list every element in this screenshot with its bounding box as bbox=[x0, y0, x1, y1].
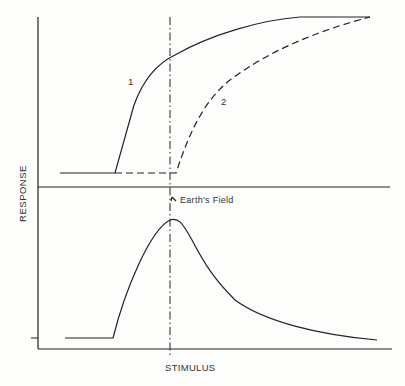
arrow-icon bbox=[171, 197, 176, 201]
response-curve bbox=[65, 219, 377, 340]
curve-1-label: 1 bbox=[128, 76, 134, 87]
y-axis-label: RESPONSE bbox=[17, 154, 28, 234]
response-diagram bbox=[0, 0, 405, 386]
earths-field-label: Earth's Field bbox=[180, 195, 234, 205]
curve-2 bbox=[115, 17, 370, 173]
x-axis-label: STIMULUS bbox=[165, 362, 215, 373]
curve-2-label: 2 bbox=[221, 96, 227, 107]
